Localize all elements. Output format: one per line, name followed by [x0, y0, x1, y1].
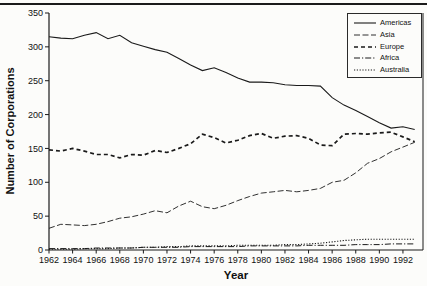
- x-tick-label: 1982: [275, 255, 295, 265]
- europe-line-sample-icon: [353, 43, 377, 51]
- series-line-europe: [49, 132, 415, 158]
- africa-line-sample-icon: [353, 54, 377, 62]
- y-tick-label: 300: [28, 42, 43, 52]
- x-tick-label: 1970: [133, 255, 153, 265]
- legend-item-americas: Americas: [353, 18, 418, 28]
- series-line-africa: [49, 244, 415, 249]
- x-tick-label: 1992: [393, 255, 413, 265]
- x-tick-label: 1988: [346, 255, 366, 265]
- x-tick-label: 1976: [204, 255, 224, 265]
- legend-item-europe: Europe: [353, 42, 418, 52]
- australia-line-sample-icon: [353, 66, 377, 74]
- x-tick-label: 1968: [110, 255, 130, 265]
- y-tick-label: 200: [28, 110, 43, 120]
- x-tick-label: 1978: [228, 255, 248, 265]
- legend-item-australia: Australia: [353, 65, 418, 75]
- x-axis-title: Year: [224, 269, 249, 281]
- legend: Americas Asia Europe Africa Australia: [347, 13, 422, 78]
- y-tick-label: 0: [38, 245, 43, 255]
- americas-line-sample-icon: [353, 19, 377, 27]
- legend-item-asia: Asia: [353, 30, 418, 40]
- x-tick-label: 1986: [322, 255, 342, 265]
- x-tick-label: 1964: [63, 255, 83, 265]
- legend-label-americas: Americas: [380, 18, 411, 28]
- x-tick-label: 1972: [157, 255, 177, 265]
- y-tick-label: 250: [28, 76, 43, 86]
- y-tick-label: 150: [28, 144, 43, 154]
- chart-page: 0501001502002503003501962196419661968197…: [0, 0, 427, 286]
- legend-label-europe: Europe: [380, 42, 404, 52]
- legend-label-africa: Africa: [380, 53, 399, 63]
- y-tick-label: 50: [33, 211, 43, 221]
- x-tick-label: 1980: [251, 255, 271, 265]
- y-axis-title: Number of Corporations: [4, 67, 16, 194]
- x-tick-label: 1974: [181, 255, 201, 265]
- asia-line-sample-icon: [353, 31, 377, 39]
- y-tick-label: 350: [28, 8, 43, 18]
- x-tick-label: 1990: [369, 255, 389, 265]
- legend-label-asia: Asia: [380, 30, 395, 40]
- x-tick-label: 1984: [299, 255, 319, 265]
- x-tick-label: 1962: [39, 255, 59, 265]
- y-tick-label: 100: [28, 177, 43, 187]
- legend-label-australia: Australia: [380, 65, 409, 75]
- x-tick-label: 1966: [86, 255, 106, 265]
- legend-item-africa: Africa: [353, 53, 418, 63]
